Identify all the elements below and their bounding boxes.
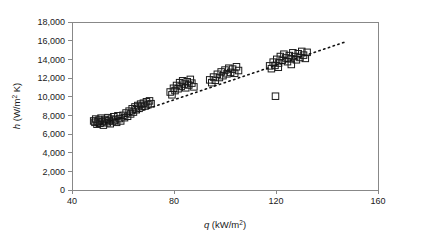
data-point [272, 93, 279, 100]
y-axis-tick-labels: 02,0004,0006,0008,00010,00012,00014,0001… [37, 17, 65, 195]
y-axis-title: h (W/m2 K) [11, 83, 22, 129]
y-tick-label-8,000: 8,000 [42, 111, 65, 121]
y-tick-label-2,000: 2,000 [42, 167, 65, 177]
data-point-markers [90, 48, 310, 128]
chart-figure: 02,0004,0006,0008,00010,00012,00014,0001… [0, 0, 421, 237]
y-tick-label-6,000: 6,000 [42, 129, 65, 139]
y-tick-label-14,000: 14,000 [37, 55, 65, 65]
x-axis-tick-labels: 4080120160 [67, 196, 386, 206]
x-tick-label-40: 40 [67, 196, 77, 206]
axis-ticks [68, 22, 378, 194]
x-axis-title: q (kW/m2) [204, 219, 246, 230]
x-tick-label-80: 80 [169, 196, 179, 206]
y-tick-label-4,000: 4,000 [42, 148, 65, 158]
y-tick-label-18,000: 18,000 [37, 17, 65, 27]
y-tick-label-12,000: 12,000 [37, 73, 65, 83]
x-tick-label-160: 160 [370, 196, 385, 206]
y-tick-label-10,000: 10,000 [37, 92, 65, 102]
plot-axis-frame [72, 22, 378, 190]
y-tick-label-16,000: 16,000 [37, 36, 65, 46]
scatter-plot: 02,0004,0006,0008,00010,00012,00014,0001… [0, 0, 421, 237]
y-tick-label-0: 0 [60, 185, 65, 195]
x-tick-label-120: 120 [268, 196, 283, 206]
